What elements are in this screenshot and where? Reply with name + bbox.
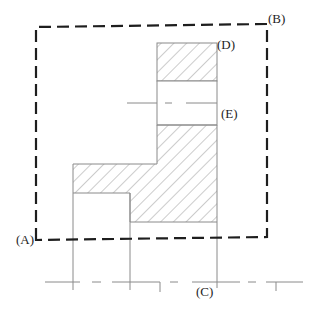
label-a: (A) <box>16 233 34 246</box>
label-b: (B) <box>268 12 285 25</box>
section-drawing <box>0 0 319 310</box>
bottom-centerline <box>45 282 303 292</box>
label-d: (D) <box>217 38 235 51</box>
hatched-body-lower <box>73 125 217 222</box>
label-e: (E) <box>221 107 238 120</box>
hatched-block-top <box>157 43 217 81</box>
label-c: (C) <box>196 285 213 298</box>
